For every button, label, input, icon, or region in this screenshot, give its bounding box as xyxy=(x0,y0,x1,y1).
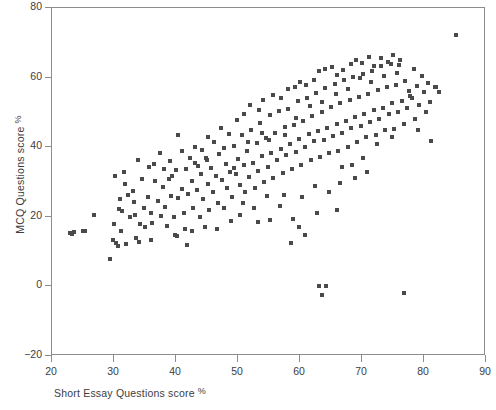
y-axis-title-unit: % xyxy=(13,115,23,123)
data-point xyxy=(382,74,386,78)
y-axis-tick-label: −20 xyxy=(0,348,42,360)
data-point xyxy=(229,219,233,223)
data-point xyxy=(353,115,357,119)
data-point xyxy=(413,117,417,121)
data-point xyxy=(375,142,379,146)
data-point xyxy=(307,132,311,136)
data-point xyxy=(128,215,132,219)
data-point xyxy=(247,175,251,179)
data-point xyxy=(257,108,261,112)
data-point xyxy=(230,195,234,199)
data-point xyxy=(361,156,365,160)
data-point xyxy=(340,165,344,169)
data-point xyxy=(162,167,166,171)
y-axis-tick xyxy=(45,216,52,217)
data-point xyxy=(429,139,433,143)
data-point xyxy=(391,53,395,57)
data-point xyxy=(234,172,238,176)
data-point xyxy=(353,176,357,180)
data-point xyxy=(349,62,353,66)
x-axis-tick-label: 30 xyxy=(93,365,133,377)
data-point xyxy=(395,71,399,75)
data-point xyxy=(336,149,340,153)
data-point xyxy=(161,185,165,189)
data-point xyxy=(303,233,307,237)
data-point xyxy=(322,138,326,142)
data-point xyxy=(253,186,257,190)
data-point xyxy=(298,80,302,84)
data-point xyxy=(268,113,272,117)
data-point xyxy=(260,131,264,135)
data-point xyxy=(454,33,458,37)
data-point xyxy=(284,153,288,157)
data-point xyxy=(327,151,331,155)
data-point xyxy=(256,169,260,173)
data-point xyxy=(403,79,407,83)
data-point xyxy=(132,200,136,204)
data-point xyxy=(320,110,324,114)
data-point xyxy=(242,163,246,167)
data-point xyxy=(351,75,355,79)
data-point xyxy=(156,199,160,203)
data-point xyxy=(198,215,202,219)
data-point xyxy=(258,121,262,125)
data-point xyxy=(273,131,277,135)
x-axis-tick-label: 80 xyxy=(403,365,443,377)
x-axis-tick-label: 40 xyxy=(155,365,195,377)
data-point xyxy=(323,86,327,90)
data-point xyxy=(299,163,303,167)
data-point xyxy=(152,162,156,166)
x-axis-tick xyxy=(485,355,486,362)
y-axis-tick-label: 0 xyxy=(0,278,42,290)
data-point xyxy=(195,188,199,192)
y-axis-tick xyxy=(45,285,52,286)
data-point xyxy=(170,174,174,178)
data-point xyxy=(279,96,283,100)
data-point xyxy=(379,56,383,60)
data-point xyxy=(354,58,358,62)
data-point xyxy=(201,197,205,201)
data-point xyxy=(376,88,380,92)
data-point xyxy=(165,224,169,228)
data-point xyxy=(405,106,409,110)
data-point xyxy=(308,104,312,108)
data-point xyxy=(324,284,328,288)
data-point xyxy=(256,220,260,224)
data-point xyxy=(362,112,366,116)
data-point xyxy=(370,69,374,73)
data-point xyxy=(342,78,346,82)
data-point xyxy=(119,229,123,233)
data-point xyxy=(211,190,215,194)
data-point xyxy=(138,222,142,226)
data-point xyxy=(349,126,353,130)
data-point xyxy=(313,184,317,188)
scatter-plot-figure: 806040200−20 2030405060708090 Short Essa… xyxy=(0,0,496,410)
y-axis-tick xyxy=(45,7,52,8)
data-point xyxy=(188,156,192,160)
data-point xyxy=(335,208,339,212)
data-point xyxy=(92,213,96,217)
data-point xyxy=(207,208,211,212)
data-point xyxy=(416,128,420,132)
data-point xyxy=(338,181,342,185)
data-point xyxy=(396,110,400,114)
data-point xyxy=(426,81,430,85)
data-point xyxy=(199,172,203,176)
data-point xyxy=(83,229,87,233)
data-point xyxy=(227,132,231,136)
data-point xyxy=(392,127,396,131)
data-point xyxy=(190,179,194,183)
data-point xyxy=(72,230,76,234)
data-point xyxy=(153,179,157,183)
data-point xyxy=(412,67,416,71)
data-point xyxy=(323,67,327,71)
data-point xyxy=(318,155,322,159)
data-point xyxy=(377,117,381,121)
data-point xyxy=(215,227,219,231)
data-point xyxy=(147,165,151,169)
data-point xyxy=(124,242,128,246)
data-point xyxy=(112,222,116,226)
data-points-layer xyxy=(52,8,484,354)
data-point xyxy=(357,95,361,99)
data-point xyxy=(394,83,398,87)
